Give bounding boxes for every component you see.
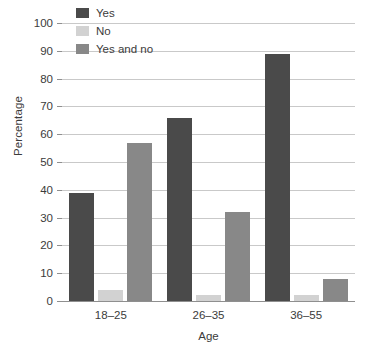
y-axis-tick-label: 20 [40, 239, 53, 251]
y-axis-tick-label: 10 [40, 267, 53, 279]
y-axis-tick-label: 0 [47, 295, 53, 307]
bar-chart: Percentage 0102030405060708090100 18–252… [0, 0, 374, 355]
legend: YesNoYes and no [76, 5, 153, 59]
y-axis-tick-label: 30 [40, 212, 53, 224]
legend-item-yesandno[interactable]: Yes and no [76, 41, 153, 57]
gridline [62, 301, 355, 302]
plot-area: 0102030405060708090100 18–2526–3536–55 [62, 23, 355, 301]
legend-swatch-no [76, 26, 89, 36]
x-axis-tick-label: 36–55 [290, 309, 322, 321]
y-axis-tick-label: 70 [40, 100, 53, 112]
bar-yes-2[interactable] [265, 54, 290, 301]
x-axis-tick-label: 26–35 [193, 309, 225, 321]
legend-item-yes[interactable]: Yes [76, 5, 153, 21]
legend-label: Yes and no [96, 43, 153, 55]
y-axis-tick-label: 90 [40, 45, 53, 57]
bar-no-2[interactable] [294, 295, 319, 301]
legend-item-no[interactable]: No [76, 23, 153, 39]
y-axis-tick-label: 100 [34, 17, 53, 29]
y-axis-tick-label: 50 [40, 156, 53, 168]
legend-swatch-yesandno [76, 44, 89, 54]
y-axis-tick-label: 60 [40, 128, 53, 140]
x-axis-tick-label: 18–25 [95, 309, 127, 321]
y-axis-tick-label: 80 [40, 73, 53, 85]
legend-swatch-yes [76, 8, 89, 18]
y-axis-title: Percentage [12, 76, 24, 176]
y-axis-tick-label: 40 [40, 184, 53, 196]
y-axis-tick [57, 301, 62, 302]
legend-label: No [96, 25, 111, 37]
bars-layer [62, 23, 355, 301]
bar-yesandno-2[interactable] [323, 279, 348, 301]
x-axis-title: Age [62, 330, 355, 342]
legend-label: Yes [96, 7, 115, 19]
bar-group [62, 23, 355, 301]
